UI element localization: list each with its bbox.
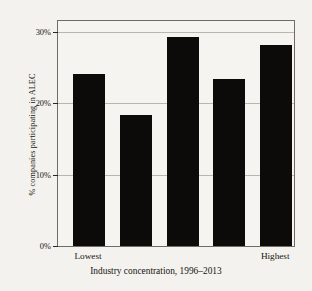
gridline: [58, 32, 294, 33]
y-tick-mark: [53, 246, 58, 247]
bar: [167, 37, 199, 246]
bar: [260, 45, 292, 246]
bar: [213, 79, 245, 246]
y-tick-label: 20%: [36, 99, 51, 108]
y-tick-label: 10%: [36, 170, 51, 179]
x-axis-title: Industry concentration, 1996–2013: [0, 266, 312, 276]
y-tick-label: 30%: [36, 27, 51, 36]
bar: [120, 115, 152, 246]
bar-chart-figure: % companies participating in ALEC 0%10%2…: [0, 0, 312, 291]
y-tick-mark: [53, 103, 58, 104]
x-axis-category-lowest: Lowest: [74, 251, 101, 261]
plot-area: 0%10%20%30%: [57, 20, 295, 247]
y-tick-mark: [53, 175, 58, 176]
y-axis-title: % companies participating in ALEC: [28, 30, 37, 240]
x-axis-category-highest: Highest: [261, 251, 290, 261]
bar: [73, 74, 105, 246]
y-tick-mark: [53, 32, 58, 33]
y-tick-label: 0%: [40, 242, 51, 251]
